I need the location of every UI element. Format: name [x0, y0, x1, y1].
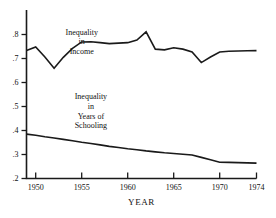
- income-label: Income: [70, 47, 94, 56]
- y-tick-label: .3: [13, 150, 19, 159]
- income-label: in: [79, 37, 85, 46]
- x-tick-label: 1950: [28, 183, 44, 192]
- y-tick-label: .7: [13, 54, 19, 63]
- series-line: [27, 32, 257, 68]
- y-tick-label: .4: [13, 126, 19, 135]
- schooling-label: Years of: [78, 112, 105, 121]
- schooling-label: in: [88, 102, 94, 111]
- y-tick-label: .8: [13, 30, 19, 39]
- y-tick-label: .2: [13, 174, 19, 183]
- x-tick-label: 1970: [212, 183, 228, 192]
- x-tick-label: 1960: [120, 183, 136, 192]
- income-label: Inequality: [65, 28, 97, 37]
- x-tick-label: 1974: [249, 183, 265, 192]
- series-group: [27, 32, 257, 163]
- x-tick-label: 1955: [74, 183, 90, 192]
- x-axis-tick-group: 195019551960196519701974: [28, 173, 265, 192]
- schooling-label: Schooling: [75, 121, 107, 130]
- y-axis-tick-group: .8.7.6.5.4.3.2: [13, 30, 27, 183]
- x-tick-label: 1965: [166, 183, 182, 192]
- line-chart: .8.7.6.5.4.3.2 195019551960196519701974 …: [0, 0, 276, 218]
- chart-container: .8.7.6.5.4.3.2 195019551960196519701974 …: [0, 0, 276, 218]
- schooling-label: Inequality: [75, 92, 107, 101]
- y-tick-label: .5: [13, 102, 19, 111]
- series-line: [27, 134, 257, 163]
- y-tick-label: .6: [13, 78, 19, 87]
- x-axis-title: YEAR: [128, 197, 155, 207]
